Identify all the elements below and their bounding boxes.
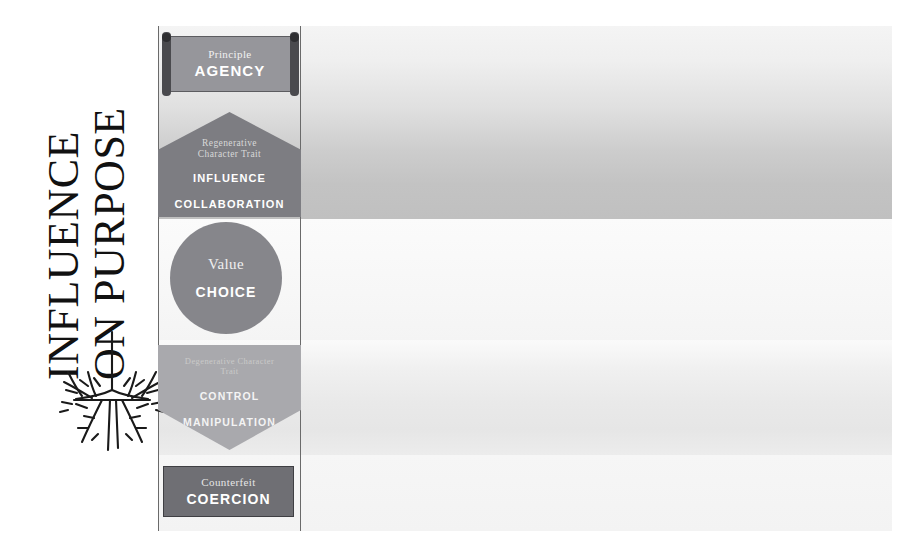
- degenerative-caption-line-2: Trait: [220, 367, 238, 377]
- level-value-circle[interactable]: Value CHOICE: [170, 222, 282, 334]
- regenerative-heading-line-2: COLLABORATION: [174, 198, 284, 211]
- principle-caption: Principle: [208, 48, 251, 60]
- degenerative-heading-line-1: CONTROL: [200, 390, 260, 402]
- regenerative-caption-line-2: Character Trait: [198, 149, 261, 160]
- value-caption: Value: [208, 256, 244, 273]
- level-counterfeit-box[interactable]: Counterfeit COERCION: [163, 466, 294, 517]
- counterfeit-heading: COERCION: [186, 491, 270, 507]
- value-heading: CHOICE: [195, 284, 256, 300]
- degenerative-heading-line-2: MANIPULATION: [183, 416, 276, 428]
- scroll-knob-right-icon: [290, 33, 299, 42]
- tree-roots-icon: [52, 330, 172, 460]
- column-rule-right: [300, 26, 301, 531]
- scroll-knob-left-icon: [162, 33, 171, 42]
- regenerative-heading-line-1: INFLUENCE: [193, 172, 266, 185]
- regenerative-caption-line-1: Regenerative: [202, 138, 257, 149]
- banner-body: Principle AGENCY: [166, 36, 294, 92]
- level-principle-banner[interactable]: Principle AGENCY: [160, 32, 300, 98]
- principle-heading: AGENCY: [195, 62, 266, 79]
- slide-canvas: INFLUENCE ON PURPOSE: [0, 0, 922, 553]
- counterfeit-caption: Counterfeit: [201, 476, 256, 488]
